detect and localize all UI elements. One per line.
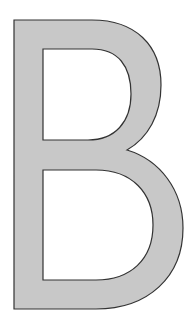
letter-b-shape xyxy=(14,20,183,309)
letter-b-glyph xyxy=(0,0,195,325)
letter-b-canvas: B xyxy=(0,0,195,325)
